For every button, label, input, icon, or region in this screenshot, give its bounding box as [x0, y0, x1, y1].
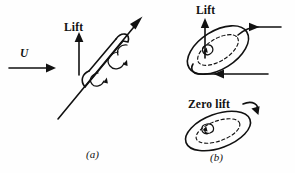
freestream-velocity-label: U [20, 48, 28, 60]
figure-drawing [0, 0, 295, 173]
panel-caption-a: (a) [86, 149, 99, 160]
freestream-arrow [9, 63, 56, 72]
lower-flow-line [192, 64, 268, 78]
lift-label-b: Lift [196, 5, 215, 17]
lift-arrow-a [75, 32, 84, 75]
cylinder-rotation-arrows [90, 45, 127, 86]
zero-lift-label: Zero lift [188, 99, 230, 111]
circulation-spiral-zerolift [202, 124, 214, 134]
circulation-spiral-b-lift [203, 45, 213, 55]
lift-label-a: Lift [64, 22, 83, 34]
figure-container: Lift Lift Zero lift U (a) (b) [0, 0, 295, 173]
panel-caption-b: (b) [210, 152, 223, 163]
zero-lift-rotation-arrow [243, 102, 260, 115]
panel-b-lift-drawing [179, 16, 281, 84]
